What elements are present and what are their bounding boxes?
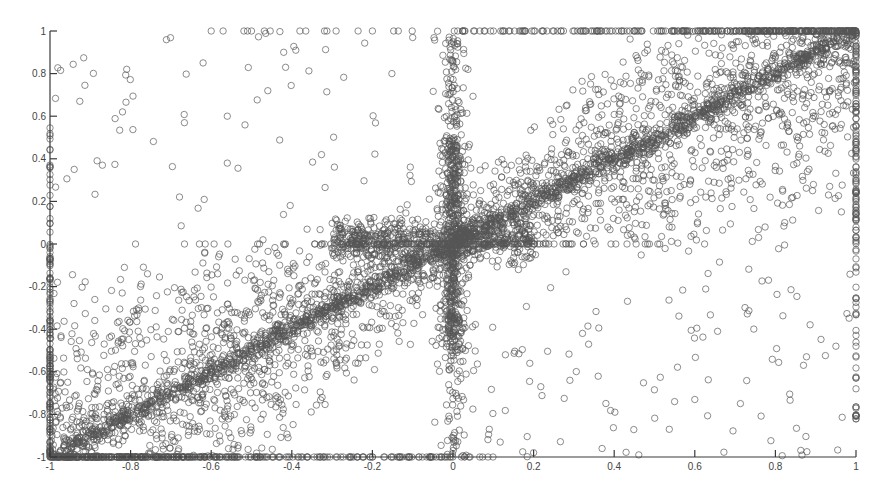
scatter-chart: 10.80.60.40.20-0.2-0.4-0.6-0.8-1 -1-0.8-… [0,0,886,494]
y-tick-label: -0.2 [29,281,47,292]
x-tick-label: 0 [450,461,456,472]
x-tick-label: 0.6 [688,461,702,472]
x-tick-label: -0.8 [122,461,140,472]
x-tick-label: 1 [853,461,859,472]
y-tick-label: 1 [40,26,46,37]
y-tick-label: 0.6 [32,111,46,122]
x-tick-label: 0.4 [607,461,621,472]
x-tick-label: 0.8 [768,461,782,472]
y-tick-label: 0.8 [32,68,46,79]
y-tick-label: 0.4 [32,153,46,164]
y-tick-label: 0 [40,239,46,250]
x-tick-label: 0.2 [527,461,541,472]
y-tick-label: -0.6 [29,366,47,377]
y-tick-label: 0.2 [32,196,46,207]
x-tick-label: -0.4 [283,461,301,472]
x-tick-label: -1 [46,461,55,472]
y-tick-label: -0.4 [29,324,47,335]
x-tick-label: -0.2 [364,461,382,472]
x-tick-label: -0.6 [203,461,221,472]
y-tick-label: -0.8 [29,409,47,420]
